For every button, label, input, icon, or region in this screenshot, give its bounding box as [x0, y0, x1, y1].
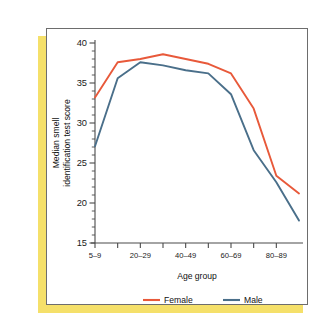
x-axis-tick-labels: 5–920–2940–4960–6980–89 [89, 251, 287, 260]
axes [91, 40, 303, 243]
legend-label-male: Male [244, 295, 263, 305]
x-axis-ticks [95, 243, 276, 248]
x-tick-label: 5–9 [89, 251, 102, 260]
y-tick-label: 35 [77, 78, 87, 88]
y-axis-tick-labels: 152025303540 [77, 38, 87, 248]
x-axis-title: Age group [177, 271, 217, 281]
x-tick-label: 60–69 [220, 251, 241, 260]
y-axis-title-line2: identification test score [62, 99, 72, 187]
data-series-group [95, 54, 299, 220]
legend-label-female: Female [164, 295, 193, 305]
plot-area-wrapper: 152025303540 5–920–2940–4960–6980–89 Age… [47, 29, 307, 304]
y-tick-label: 25 [77, 158, 87, 168]
figure-root: 152025303540 5–920–2940–4960–6980–89 Age… [0, 0, 318, 329]
y-tick-label: 15 [77, 238, 87, 248]
y-tick-label: 40 [77, 38, 87, 48]
y-tick-label: 30 [77, 118, 87, 128]
chart-legend: FemaleMale [143, 295, 263, 305]
y-axis-ticks [90, 43, 96, 243]
y-axis-title-line1: Median smell [51, 118, 61, 169]
x-tick-label: 20–29 [130, 251, 151, 260]
chart-panel: 152025303540 5–920–2940–4960–6980–89 Age… [46, 28, 308, 305]
line-chart: 152025303540 5–920–2940–4960–6980–89 Age… [47, 29, 309, 306]
y-tick-label: 20 [77, 198, 87, 208]
x-tick-label: 80–89 [266, 251, 287, 260]
x-tick-label: 40–49 [175, 251, 196, 260]
series-line-male [95, 62, 299, 220]
